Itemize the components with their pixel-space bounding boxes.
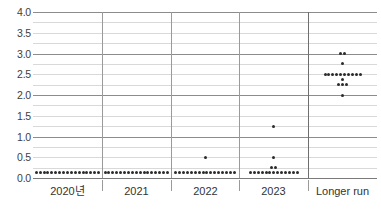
data-point-dot <box>355 73 358 76</box>
data-point-dot <box>123 171 126 174</box>
data-point-dot <box>166 171 169 174</box>
data-point-dot <box>146 171 149 174</box>
data-point-dot <box>54 171 57 174</box>
y-axis-tick-label: 4.0 <box>3 7 31 17</box>
data-point-dot <box>143 171 146 174</box>
gridline-minor <box>33 168 377 169</box>
data-point-dot <box>253 171 256 174</box>
gridline-major <box>33 178 377 179</box>
data-point-dot <box>154 171 157 174</box>
data-point-dot <box>209 171 212 174</box>
data-point-dot <box>182 171 185 174</box>
y-axis-tick-label: 3.5 <box>3 28 31 38</box>
y-axis-tick-label: 3.0 <box>3 49 31 59</box>
data-point-dot <box>62 171 65 174</box>
column-separator <box>102 12 103 178</box>
data-point-dot <box>221 171 224 174</box>
data-point-dot <box>204 156 207 159</box>
data-point-dot <box>93 171 96 174</box>
x-axis-tick-label: 2021 <box>102 184 171 198</box>
gridline-minor <box>33 147 377 148</box>
data-point-dot <box>225 171 228 174</box>
y-axis-tick-label: 0.0 <box>3 173 31 183</box>
gridline-minor <box>33 105 377 106</box>
y-axis-tick-label: 1.0 <box>3 132 31 142</box>
column-separator <box>171 12 172 178</box>
data-point-dot <box>324 73 327 76</box>
y-axis-tick-label: 1.5 <box>3 111 31 121</box>
x-axis-tick-label: 2023 <box>239 184 308 198</box>
data-point-dot <box>70 171 73 174</box>
data-point-dot <box>249 171 252 174</box>
data-point-dot <box>280 171 283 174</box>
y-axis-tick-label: 2.0 <box>3 90 31 100</box>
data-point-dot <box>229 171 232 174</box>
data-point-dot <box>213 171 216 174</box>
data-point-dot <box>50 171 53 174</box>
data-point-dot <box>284 171 287 174</box>
data-point-dot <box>111 171 114 174</box>
gridline-minor <box>33 126 377 127</box>
data-point-dot <box>276 171 279 174</box>
data-point-dot <box>265 171 268 174</box>
data-point-dot <box>89 171 92 174</box>
gridline-half <box>33 116 377 117</box>
data-point-dot <box>341 78 344 81</box>
x-axis-tick-label: Longer run <box>308 184 377 198</box>
data-point-dot <box>74 171 77 174</box>
data-point-dot <box>85 171 88 174</box>
data-point-dot <box>347 73 350 76</box>
data-point-dot <box>343 73 346 76</box>
data-point-dot <box>257 171 260 174</box>
data-point-dot <box>43 171 46 174</box>
data-point-dot <box>127 171 130 174</box>
gridline-major <box>33 95 377 96</box>
data-point-dot <box>97 171 100 174</box>
data-point-dot <box>331 73 334 76</box>
gridline-major <box>33 54 377 55</box>
data-point-dot <box>46 171 49 174</box>
data-point-dot <box>205 171 208 174</box>
data-point-dot <box>139 171 142 174</box>
data-point-dot <box>58 171 61 174</box>
data-point-dot <box>341 94 344 97</box>
data-point-dot <box>115 171 118 174</box>
data-point-dot <box>66 171 69 174</box>
gridline-minor <box>33 64 377 65</box>
y-axis-tick-label: 0.5 <box>3 152 31 162</box>
data-point-dot <box>296 171 299 174</box>
gridline-minor <box>33 22 377 23</box>
data-point-dot <box>351 73 354 76</box>
data-point-dot <box>131 171 134 174</box>
data-point-dot <box>186 171 189 174</box>
plot-area <box>33 12 377 178</box>
data-point-dot <box>233 171 236 174</box>
data-point-dot <box>194 171 197 174</box>
y-axis-tick-label: 2.5 <box>3 69 31 79</box>
data-point-dot <box>135 171 138 174</box>
data-point-dot <box>158 171 161 174</box>
data-point-dot <box>288 171 291 174</box>
data-point-dot <box>107 171 110 174</box>
data-point-dot <box>335 73 338 76</box>
dot-plot-chart: 4.03.53.02.52.01.51.00.50.0 2020년2021202… <box>0 0 381 209</box>
column-separator <box>239 12 240 178</box>
data-point-dot <box>119 171 122 174</box>
x-axis: 2020년202120222023Longer run <box>33 180 377 208</box>
data-point-dot <box>339 73 342 76</box>
data-point-dot <box>190 171 193 174</box>
data-point-dot <box>39 171 42 174</box>
data-point-dot <box>162 171 165 174</box>
data-point-dot <box>82 171 85 174</box>
data-point-dot <box>272 125 275 128</box>
data-point-dot <box>178 171 181 174</box>
data-point-dot <box>198 171 201 174</box>
x-axis-tick-label: 2020년 <box>33 184 102 198</box>
x-axis-tick-label: 2022 <box>171 184 240 198</box>
data-point-dot <box>202 171 205 174</box>
data-point-dot <box>261 171 264 174</box>
gridline-half <box>33 33 377 34</box>
data-point-dot <box>359 73 362 76</box>
y-axis: 4.03.53.02.52.01.51.00.50.0 <box>0 12 31 178</box>
column-separator <box>308 12 309 178</box>
